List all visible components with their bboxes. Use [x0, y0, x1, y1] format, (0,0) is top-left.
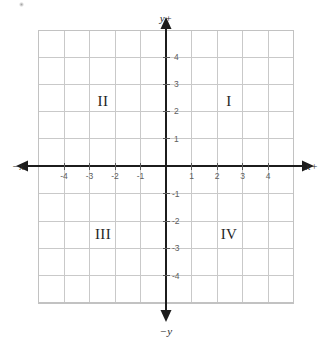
y-tick-label-1: 1	[174, 134, 179, 144]
y-tick-label-neg-4: -4	[172, 271, 180, 281]
y-tick-label-neg-2: -2	[172, 216, 180, 226]
coordinate-plane-figure: -4 -3 -2 -1 1 2 3 4 4 3 2 1 -1 -2 -3 -4	[0, 0, 330, 340]
y-axis	[161, 17, 172, 322]
y-tick-label-3: 3	[174, 79, 179, 89]
quadrant-label-two: II	[98, 93, 109, 109]
x-tick-label-2: 2	[215, 171, 220, 181]
x-tick-label-neg-1: -1	[137, 171, 145, 181]
y-positive-axis-label: y+	[159, 12, 172, 24]
coordinate-plane-svg: -4 -3 -2 -1 1 2 3 4 4 3 2 1 -1 -2 -3 -4	[0, 0, 330, 340]
y-axis-positive-tick-labels: 4 3 2 1	[174, 52, 179, 144]
quadrant-label-three: III	[95, 226, 111, 242]
y-tick-label-4: 4	[174, 52, 179, 62]
x-axis-negative-tick-labels: -4 -3 -2 -1	[60, 171, 144, 181]
quadrant-label-one: I	[226, 93, 231, 109]
x-tick-label-neg-3: -3	[86, 171, 94, 181]
y-tick-label-neg-3: -3	[172, 243, 180, 253]
y-tick-label-2: 2	[174, 106, 179, 116]
y-axis-negative-arrowhead	[161, 310, 172, 322]
x-tick-label-3: 3	[240, 171, 245, 181]
x-tick-label-4: 4	[266, 171, 271, 181]
x-tick-label-neg-4: -4	[60, 171, 68, 181]
x-positive-axis-label: x+	[305, 160, 318, 172]
x-negative-axis-label: −x	[12, 160, 24, 172]
y-negative-axis-label: −y	[160, 325, 172, 337]
x-tick-label-neg-2: -2	[111, 171, 119, 181]
x-axis-positive-tick-labels: 1 2 3 4	[189, 171, 271, 181]
y-axis-negative-tick-labels: -1 -2 -3 -4	[172, 189, 180, 281]
x-tick-label-1: 1	[189, 171, 194, 181]
quadrant-label-four: IV	[221, 226, 238, 242]
y-tick-label-neg-1: -1	[172, 189, 180, 199]
